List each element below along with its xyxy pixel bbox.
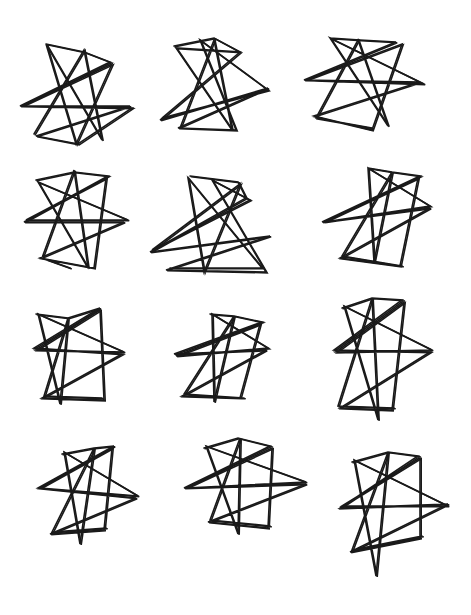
scribble-star-icon [20, 44, 133, 145]
scribble-star-icon [304, 38, 425, 131]
scribble-star-icon [38, 446, 139, 545]
sketch-canvas [0, 0, 471, 615]
scribble-star-icon [160, 38, 269, 131]
scribble-star-icon [34, 308, 125, 405]
scribble-stars-drawing [0, 0, 471, 615]
scribble-star-icon [150, 176, 271, 273]
scribble-star-icon [322, 168, 431, 267]
scribble-star-icon [24, 170, 129, 269]
scribble-star-icon [174, 314, 269, 403]
scribble-star-icon [334, 298, 433, 421]
scribble-star-icon [340, 452, 449, 577]
scribble-star-icon [184, 438, 307, 535]
